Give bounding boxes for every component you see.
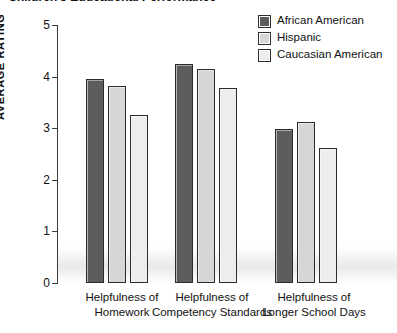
y-axis-tick-label: 4 (36, 70, 50, 84)
y-axis-tick-label: 0 (36, 276, 50, 290)
bar (197, 69, 215, 283)
y-axis-tick-label: 3 (36, 121, 50, 135)
bar (86, 79, 104, 283)
bar-group (86, 25, 148, 283)
bar-group (175, 25, 237, 283)
y-axis-tick (52, 283, 58, 284)
bar (108, 86, 126, 283)
bar (319, 148, 337, 283)
bar (175, 64, 193, 283)
y-axis-tick-label: 5 (36, 18, 50, 32)
x-axis-label: Helpfulness ofLonger School Days (244, 290, 384, 320)
y-axis-tick-label: 2 (36, 173, 50, 187)
bar-group (275, 25, 337, 283)
page-title: Children's Educational Performance (8, 0, 216, 4)
bar (130, 115, 148, 283)
bar (219, 88, 237, 283)
y-axis-title: AVERAGE RATING (0, 14, 6, 120)
x-axis-labels: Helpfulness ofHomeworkHelpfulness ofComp… (57, 290, 397, 332)
bar-plot-area (58, 25, 396, 283)
bar (275, 129, 293, 283)
bar (297, 122, 315, 283)
y-axis-tick-label: 1 (36, 224, 50, 238)
